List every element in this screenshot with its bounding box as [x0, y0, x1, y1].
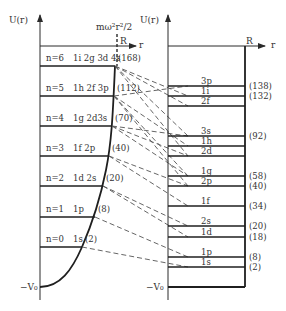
level-orbitals-label: 1h 2f 3p [73, 83, 109, 93]
magic-number-label: (40) [112, 143, 129, 153]
right-x-axis-label: r [271, 40, 276, 50]
oscillator-level: n=21d 2s(20) [40, 173, 123, 186]
magic-number-label: (8) [98, 204, 110, 214]
magic-number-label: (20) [106, 173, 123, 183]
square-well-level: 3s(92) [168, 126, 266, 141]
orbital-label: 2f [201, 96, 210, 106]
left-panel: U(r) r mω²r²/2 R −V₀ n=61i 2g 3d 4s(168)… [9, 15, 144, 300]
right-y-axis-label: U(r) [140, 15, 159, 25]
magic-number-label: (2) [85, 234, 97, 244]
orbital-label: 1s [201, 257, 211, 267]
magic-number-label: (168) [118, 53, 141, 63]
orbital-label: 2d [201, 146, 212, 156]
orbital-label: 1p [201, 247, 212, 257]
left-potential-label: mω²r²/2 [96, 22, 132, 32]
right-levels: 3p(138)1i(132)2f3s(92)1h2d1g(58)2p(40)1f… [168, 76, 272, 272]
left-x-axis-label: r [139, 40, 144, 50]
left-bottom-label: −V₀ [20, 282, 38, 292]
square-well-level: 1p(8) [168, 247, 261, 262]
orbital-label: 1g [201, 166, 212, 176]
magic-number-label: (132) [249, 91, 272, 101]
left-levels: n=61i 2g 3d 4s(168)n=51h 2f 3p(112)n=41g… [40, 53, 141, 247]
orbital-label: 1h [201, 136, 212, 146]
magic-number-label: (40) [249, 181, 266, 191]
left-y-axis-label: U(r) [9, 15, 28, 25]
square-well-level: 1s(2) [168, 257, 261, 272]
orbital-label: 2s [201, 216, 211, 226]
shell-model-diagram: U(r) r mω²r²/2 R −V₀ n=61i 2g 3d 4s(168)… [0, 0, 286, 311]
orbital-label: 3p [201, 76, 212, 86]
level-n-label: n=0 [46, 234, 64, 244]
magic-number-label: (112) [117, 83, 140, 93]
orbital-label: 2p [201, 176, 212, 186]
level-orbitals-label: 1g 2d3s [73, 113, 107, 123]
level-n-label: n=5 [46, 83, 64, 93]
level-n-label: n=1 [46, 204, 64, 214]
magic-number-label: (18) [249, 232, 266, 242]
oscillator-level: n=31f 2p(40) [40, 143, 129, 156]
square-well-level: 2d [168, 146, 245, 156]
right-radius-label: R [246, 36, 253, 46]
orbital-label: 1i [201, 86, 209, 96]
magic-number-label: (58) [249, 171, 266, 181]
level-orbitals-label: 1i 2g 3d 4s [73, 53, 121, 63]
oscillator-level: n=01s(2) [40, 234, 97, 247]
magic-number-label: (2) [249, 262, 261, 272]
level-n-label: n=3 [46, 143, 64, 153]
right-bottom-label: −V₀ [146, 282, 164, 292]
orbital-label: 1d [201, 227, 212, 237]
oscillator-level: n=41g 2d3s(70) [40, 113, 132, 126]
orbital-label: 3s [201, 126, 211, 136]
left-radius-label: R [120, 36, 127, 46]
magic-number-label: (92) [249, 131, 266, 141]
level-orbitals-label: 1f 2p [73, 143, 96, 153]
square-well-level: 3p(138) [168, 76, 272, 91]
square-well-level: 1f(34) [168, 196, 266, 211]
oscillator-level: n=61i 2g 3d 4s(168) [40, 53, 141, 66]
oscillator-level: n=11p(8) [40, 204, 110, 217]
level-n-label: n=6 [46, 53, 64, 63]
level-orbitals-label: 1p [73, 204, 84, 214]
oscillator-level: n=51h 2f 3p(112) [40, 83, 140, 96]
orbital-label: 1f [201, 196, 210, 206]
magic-number-label: (70) [115, 113, 132, 123]
level-n-label: n=4 [46, 113, 64, 123]
magic-number-label: (20) [249, 221, 266, 231]
level-orbitals-label: 1s [73, 234, 83, 244]
level-orbitals-label: 1d 2s [73, 173, 96, 183]
square-well-level: 1h [168, 136, 245, 146]
magic-number-label: (138) [249, 81, 272, 91]
level-n-label: n=2 [46, 173, 64, 183]
magic-number-label: (8) [249, 252, 261, 262]
magic-number-label: (34) [249, 201, 266, 211]
square-well-level: 1g(58) [168, 166, 266, 181]
